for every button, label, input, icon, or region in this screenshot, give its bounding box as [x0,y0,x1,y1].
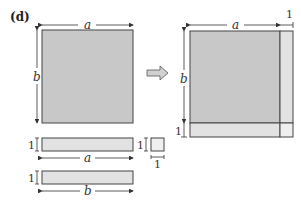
composite-bottom-strip [190,123,280,137]
label-b: b [33,70,41,84]
label-1-top: 1 [286,8,293,21]
strip-a-group: 1 a [28,138,133,165]
label-1: 1 [28,139,35,152]
left-square-group: a b [33,18,133,123]
label-b: b [180,72,188,86]
strip-b [42,171,133,184]
composite-right-strip [280,31,293,123]
label-a: a [232,18,239,32]
label-1-side: 1 [137,139,144,152]
label-b: b [84,184,92,198]
label-1-left: 1 [175,125,182,138]
right-composite-group: a 1 b 1 [175,8,293,138]
label-a: a [84,18,91,32]
panel-label: (d) [10,10,30,24]
unit-square [151,138,164,151]
strip-b-group: 1 b [28,171,133,198]
label-1-bottom: 1 [154,158,161,171]
composite-corner-square [280,123,293,137]
diagram-canvas: (d) a b a 1 b 1 [0,0,301,211]
left-square [42,30,133,123]
composite-main [190,31,280,123]
transform-arrow-icon [147,66,168,80]
label-1: 1 [28,172,35,185]
label-a: a [84,151,91,165]
unit-square-group: 1 1 [137,138,164,171]
strip-a [42,138,133,151]
